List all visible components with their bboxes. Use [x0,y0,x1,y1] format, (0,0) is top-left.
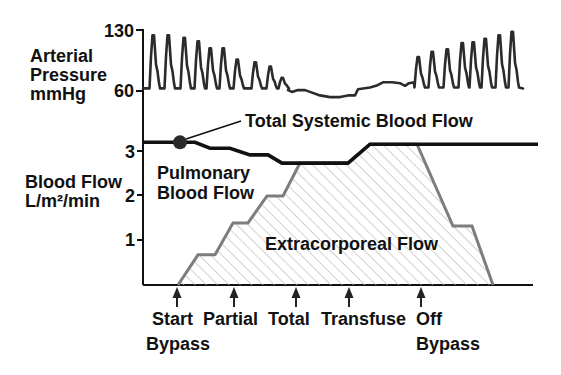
event-label-start: Start [152,309,193,329]
tick-label-3: 3 [125,142,135,162]
flow-label-line1: Blood Flow [25,172,123,192]
arrow-up-icon [173,287,182,307]
arrow-up-icon [345,287,354,307]
arrow-up-icon [417,287,426,307]
arrow-up-icon [292,287,301,307]
flow-label-line2: L/m²/min [25,191,100,211]
pressure-axis-label: Arterial Pressure mmHg [30,46,107,104]
annotation-pulmonary-line1: Pulmonary [157,163,250,183]
tick-label-130: 130 [104,21,134,41]
event-label-total: Total [268,309,310,329]
annotation-pointer-line [186,121,241,139]
annotation-total-systemic-flow: Total Systemic Blood Flow [245,111,474,131]
arterial-pressure-trace [143,32,523,97]
bypass-physiology-chart: Arterial Pressure mmHg Blood Flow L/m²/m… [0,0,561,375]
total-flow-marker-dot [173,135,187,149]
event-label-off: Off [416,309,443,329]
annotation-extracorporeal-flow: Extracorporeal Flow [265,234,439,254]
tick-label-1: 1 [125,230,135,250]
annotation-pulmonary-line2: Blood Flow [157,183,255,203]
pressure-label-line2: Pressure [30,65,107,85]
tick-label-2: 2 [125,186,135,206]
event-sublabel-start-bypass: Bypass [146,334,210,354]
pressure-label-line3: mmHg [30,84,86,104]
tick-label-60: 60 [114,81,134,101]
event-label-partial: Partial [203,309,258,329]
total-systemic-flow-line [143,142,538,163]
arrow-up-icon [230,287,239,307]
pressure-label-line1: Arterial [30,46,93,66]
event-sublabel-off-bypass: Bypass [416,334,480,354]
flow-axis-label: Blood Flow L/m²/min [25,172,123,211]
event-label-transfuse: Transfuse [321,309,406,329]
